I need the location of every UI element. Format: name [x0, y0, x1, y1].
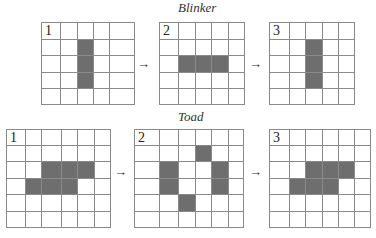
live-cell	[77, 39, 93, 55]
step-label: 1	[10, 131, 17, 145]
grid-line	[269, 22, 355, 23]
live-cell	[159, 178, 178, 194]
grid-line	[322, 22, 323, 105]
live-cell	[322, 161, 338, 178]
grid-line	[244, 22, 245, 105]
arrow-right-icon: →	[249, 165, 262, 178]
live-cell	[77, 72, 93, 88]
live-cell	[178, 194, 195, 211]
live-cell	[25, 178, 41, 194]
arrow-right-icon: →	[249, 57, 262, 70]
grid-line	[269, 22, 270, 105]
live-cell	[305, 55, 322, 72]
grid-line	[269, 55, 355, 56]
grid-line	[159, 22, 245, 23]
grid-line	[6, 194, 111, 195]
grid-line	[41, 88, 135, 89]
live-cell	[77, 55, 93, 72]
grid-line	[134, 161, 244, 162]
step-label: 3	[273, 131, 280, 145]
grid-line	[159, 39, 245, 40]
blinker-title: Blinker	[178, 0, 216, 16]
live-cell	[41, 178, 61, 194]
step-label: 2	[138, 131, 145, 145]
grid-line	[159, 72, 245, 73]
grid-line	[134, 211, 244, 212]
step-label: 3	[273, 24, 280, 38]
grid-line	[159, 88, 245, 89]
grid-line	[159, 55, 245, 56]
toad-title: Toad	[178, 109, 204, 125]
live-cell	[289, 178, 305, 194]
live-cell	[159, 161, 178, 178]
grid-line	[41, 72, 135, 73]
grid-line	[269, 161, 371, 162]
live-cell	[61, 178, 77, 194]
grid-line	[60, 22, 61, 105]
grid-line	[41, 22, 42, 105]
live-cell	[211, 55, 228, 72]
live-cell	[41, 161, 61, 178]
grid-line	[269, 88, 355, 89]
arrow-right-icon: →	[137, 57, 150, 70]
live-cell	[195, 145, 211, 161]
grid-line	[41, 22, 135, 23]
grid-line	[178, 22, 179, 105]
grid-line	[41, 104, 135, 105]
grid-line	[6, 227, 111, 228]
grid-line	[93, 22, 94, 105]
grid-line	[134, 145, 244, 146]
live-cell	[305, 72, 322, 88]
grid-line	[269, 194, 371, 195]
grid-line	[228, 22, 229, 105]
step-label: 1	[45, 24, 52, 38]
step-label: 2	[163, 24, 170, 38]
grid-line	[134, 178, 244, 179]
grid-line	[41, 55, 135, 56]
live-cell	[322, 178, 338, 194]
grid-line	[269, 211, 371, 212]
grid-line	[338, 22, 339, 105]
live-cell	[305, 39, 322, 55]
grid-line	[269, 227, 371, 228]
live-cell	[211, 161, 228, 178]
grid-line	[269, 145, 371, 146]
grid-line	[6, 129, 111, 130]
grid-line	[289, 22, 290, 105]
grid-line	[269, 72, 355, 73]
grid-line	[134, 227, 244, 228]
live-cell	[178, 55, 195, 72]
grid-line	[269, 39, 355, 40]
live-cell	[305, 161, 322, 178]
grid-line	[354, 22, 355, 105]
arrow-right-icon: →	[114, 165, 127, 178]
live-cell	[338, 161, 354, 178]
grid-line	[6, 211, 111, 212]
grid-line	[77, 22, 78, 105]
grid-line	[134, 129, 244, 130]
grid-line	[159, 22, 160, 105]
grid-line	[211, 22, 212, 105]
grid-line	[269, 129, 371, 130]
live-cell	[61, 161, 77, 178]
grid-line	[6, 161, 111, 162]
grid-line	[6, 178, 111, 179]
grid-line	[269, 104, 355, 105]
grid-line	[195, 22, 196, 105]
live-cell	[211, 178, 228, 194]
grid-line	[109, 22, 110, 105]
grid-line	[269, 178, 371, 179]
live-cell	[305, 178, 322, 194]
grid-line	[159, 104, 245, 105]
grid-line	[134, 194, 244, 195]
grid-line	[134, 22, 135, 105]
grid-line	[6, 145, 111, 146]
live-cell	[77, 161, 94, 178]
live-cell	[195, 55, 211, 72]
grid-line	[305, 22, 306, 105]
grid-line	[41, 39, 135, 40]
